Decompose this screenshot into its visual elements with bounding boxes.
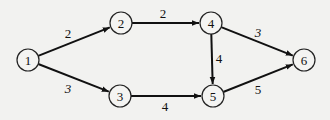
edge-1-2 xyxy=(38,27,110,55)
node-3: 3 xyxy=(109,85,131,107)
node-2: 2 xyxy=(110,12,132,34)
edge-weight-2-4: 2 xyxy=(160,6,167,21)
node-5: 5 xyxy=(202,85,224,107)
edge-weight-4-6: 3 xyxy=(254,25,262,40)
arrow-icon xyxy=(38,64,109,92)
node-label: 1 xyxy=(25,53,32,68)
arrow-icon xyxy=(38,27,110,55)
node-label: 5 xyxy=(210,89,217,104)
edge-4-5 xyxy=(211,34,212,84)
node-label: 4 xyxy=(208,16,215,31)
edge-weight-1-2: 2 xyxy=(65,26,72,41)
edge-1-3 xyxy=(38,64,109,92)
node-label: 3 xyxy=(117,89,124,104)
edge-weight-3-5: 4 xyxy=(162,99,169,114)
edge-weight-4-5: 4 xyxy=(216,51,223,66)
edge-weight-labels: 2324435 xyxy=(64,6,262,114)
node-label: 2 xyxy=(118,16,125,31)
node-6: 6 xyxy=(293,49,315,71)
node-label: 6 xyxy=(301,53,308,68)
graph-diagram: 2324435 123456 xyxy=(0,0,330,120)
arrow-icon xyxy=(211,34,212,84)
edge-weight-1-3: 3 xyxy=(64,81,72,96)
node-1: 1 xyxy=(17,49,39,71)
graph-svg: 2324435 123456 xyxy=(0,0,330,120)
node-4: 4 xyxy=(200,12,222,34)
nodes: 123456 xyxy=(17,12,315,107)
edge-weight-5-6: 5 xyxy=(255,82,262,97)
